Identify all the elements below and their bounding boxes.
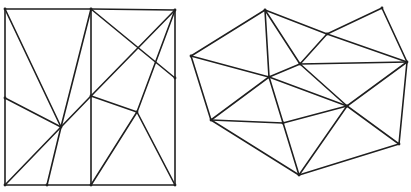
edge-C-BM xyxy=(91,112,137,185)
vertex-A xyxy=(60,126,63,129)
edge-P1-P4 xyxy=(265,10,269,77)
vertex-BR xyxy=(174,184,177,187)
vertex-TM xyxy=(90,8,93,11)
vertex-P2 xyxy=(190,55,193,58)
vertex-P11 xyxy=(298,174,301,177)
edge-P4-P9 xyxy=(269,77,347,106)
edge-C-TR xyxy=(137,10,175,112)
vertex-RM xyxy=(174,77,177,80)
vertex-P8 xyxy=(406,61,409,64)
vertex-TR xyxy=(174,9,177,12)
edge-P5-P6 xyxy=(300,34,327,64)
vertex-P10 xyxy=(282,122,285,125)
vertex-P1 xyxy=(264,9,267,12)
vertex-BL xyxy=(4,184,7,187)
edge-P3-P10 xyxy=(211,120,283,123)
edge-P2-P3 xyxy=(191,56,211,120)
edge-LM-A xyxy=(5,98,61,127)
edge-P4-P11 xyxy=(269,77,299,175)
edge-P4-P3 xyxy=(211,77,269,120)
vertex-P5 xyxy=(299,63,302,66)
edge-P3-P11 xyxy=(211,120,299,175)
edge-P7-P6 xyxy=(327,8,382,34)
edge-P11-P12 xyxy=(299,144,399,175)
edge-P9-P12 xyxy=(347,106,399,144)
edge-P5-P9 xyxy=(300,64,347,106)
vertex-C xyxy=(136,111,139,114)
polygon-triangulation xyxy=(190,7,409,177)
edge-BQ-A xyxy=(47,127,61,185)
triangulation-diagram xyxy=(0,0,411,192)
edge-TM-A xyxy=(61,9,91,127)
edge-TL-A xyxy=(5,9,61,127)
edge-TM-TR xyxy=(91,9,175,10)
vertex-P7 xyxy=(381,7,384,10)
edge-P5-P8 xyxy=(300,62,407,64)
vertex-TL xyxy=(4,8,7,11)
square-triangulation xyxy=(4,8,177,187)
vertex-P6 xyxy=(326,33,329,36)
vertex-P3 xyxy=(210,119,213,122)
edge-C-BR xyxy=(137,112,175,185)
edge-P12-P8 xyxy=(399,62,407,144)
edge-B-TR xyxy=(91,10,175,96)
edge-P9-P8 xyxy=(347,62,407,106)
edge-P1-P6 xyxy=(265,10,327,34)
edge-P1-P2 xyxy=(191,10,265,56)
vertex-P9 xyxy=(346,105,349,108)
edge-P2-P4 xyxy=(191,56,269,77)
vertex-B xyxy=(90,95,93,98)
vertex-BQ xyxy=(46,184,49,187)
vertex-P12 xyxy=(398,143,401,146)
edge-BL-A xyxy=(5,127,61,185)
edge-B-C xyxy=(91,96,137,112)
vertex-BM xyxy=(90,184,93,187)
edge-P4-P5 xyxy=(269,64,300,77)
edge-P6-P8 xyxy=(327,34,407,62)
vertex-LM xyxy=(4,97,7,100)
vertex-P4 xyxy=(268,76,271,79)
edge-P1-P5 xyxy=(265,10,300,64)
